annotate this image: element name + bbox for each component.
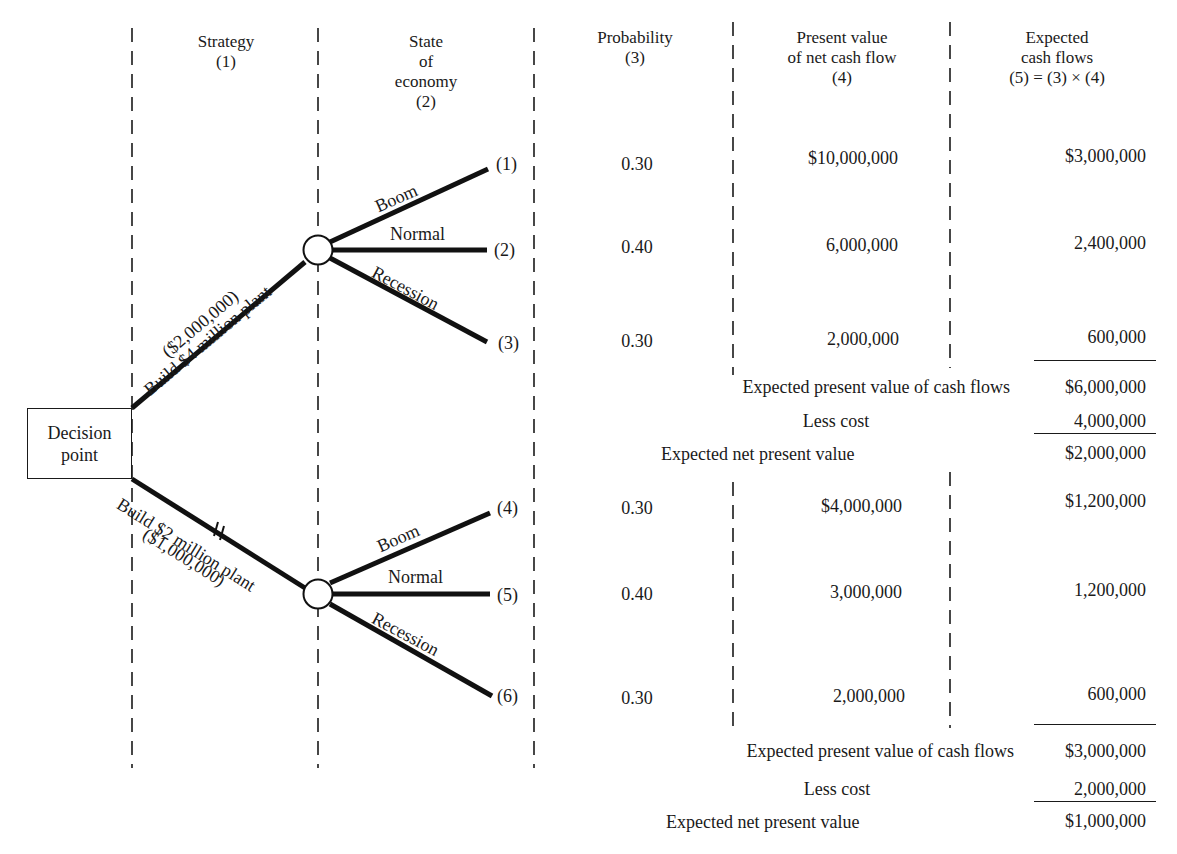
expected-cash-flow-cell: 600,000 [1088, 684, 1147, 705]
branch-recession-6 [330, 604, 492, 696]
header-pv-line2: of net cash flow [787, 48, 896, 68]
header-state-line4: (2) [395, 92, 457, 112]
header-pv-line1: Present value [787, 28, 896, 48]
chance-node-lower [304, 580, 333, 609]
present-value-cell: 2,000,000 [827, 329, 899, 350]
probability-cell: 0.40 [621, 584, 653, 605]
expected-cash-flow-cell: $3,000,000 [1065, 146, 1146, 167]
total-rule-lower [1034, 801, 1156, 802]
expected-pv-value-upper: $6,000,000 [1065, 377, 1146, 398]
expected-pv-label-upper: Expected present value of cash flows [743, 377, 1010, 398]
header-probability-line2: (3) [597, 48, 673, 68]
present-value-cell: 6,000,000 [826, 235, 898, 256]
total-rule-upper [1034, 433, 1156, 434]
state-label-normal-upper: Normal [390, 224, 445, 245]
outcome-node-2: (2) [494, 240, 515, 261]
header-probability-line1: Probability [597, 28, 673, 48]
decision-point-box: Decision point [27, 408, 132, 479]
header-ecf-line2: cash flows [1009, 48, 1105, 68]
outcome-node-4: (4) [497, 498, 518, 519]
expected-pv-value-lower: $3,000,000 [1065, 741, 1146, 762]
expected-pv-label-lower: Expected present value of cash flows [747, 741, 1014, 762]
header-strategy: Strategy (1) [198, 32, 255, 72]
less-cost-label-upper: Less cost [803, 411, 870, 432]
header-expected-cash-flows: Expected cash flows (5) = (3) × (4) [1009, 28, 1105, 88]
decision-point-line1: Decision [48, 422, 112, 444]
present-value-cell: 3,000,000 [830, 582, 902, 603]
probability-cell: 0.30 [621, 688, 653, 709]
expected-cash-flow-cell: 600,000 [1088, 327, 1147, 348]
header-state-of-economy: State of economy (2) [395, 32, 457, 112]
decision-tree-graphics [0, 0, 1177, 854]
less-cost-value-upper: 4,000,000 [1074, 411, 1146, 432]
enpv-value-upper: $2,000,000 [1065, 443, 1146, 464]
header-strategy-line2: (1) [198, 52, 255, 72]
probability-cell: 0.30 [621, 154, 653, 175]
outcome-node-1: (1) [496, 154, 517, 175]
expected-cash-flow-cell: 1,200,000 [1074, 580, 1146, 601]
header-ecf-line3: (5) = (3) × (4) [1009, 68, 1105, 88]
expected-cash-flow-cell: 2,400,000 [1074, 233, 1146, 254]
present-value-cell: 2,000,000 [833, 686, 905, 707]
header-present-value: Present value of net cash flow (4) [787, 28, 896, 88]
present-value-cell: $4,000,000 [821, 496, 902, 517]
enpv-label-upper: Expected net present value [661, 444, 854, 465]
probability-cell: 0.30 [621, 331, 653, 352]
sum-rule-lower [1034, 724, 1156, 725]
header-strategy-line1: Strategy [198, 32, 255, 52]
sum-rule-upper [1034, 360, 1156, 361]
header-state-line2: of [395, 52, 457, 72]
header-probability: Probability (3) [597, 28, 673, 68]
enpv-value-lower: $1,000,000 [1065, 811, 1146, 832]
decision-point-line2: point [61, 444, 98, 466]
probability-cell: 0.30 [621, 498, 653, 519]
chance-node-upper [304, 236, 333, 265]
header-state-line1: State [395, 32, 457, 52]
present-value-cell: $10,000,000 [808, 148, 898, 169]
enpv-label-lower: Expected net present value [666, 812, 859, 833]
state-label-normal-lower: Normal [388, 567, 443, 588]
header-ecf-line1: Expected [1009, 28, 1105, 48]
outcome-node-5: (5) [497, 585, 518, 606]
less-cost-label-lower: Less cost [804, 779, 871, 800]
less-cost-value-lower: 2,000,000 [1074, 779, 1146, 800]
expected-cash-flow-cell: $1,200,000 [1065, 491, 1146, 512]
header-pv-line3: (4) [787, 68, 896, 88]
probability-cell: 0.40 [621, 237, 653, 258]
outcome-node-6: (6) [497, 686, 518, 707]
header-state-line3: economy [395, 72, 457, 92]
outcome-node-3: (3) [498, 333, 519, 354]
